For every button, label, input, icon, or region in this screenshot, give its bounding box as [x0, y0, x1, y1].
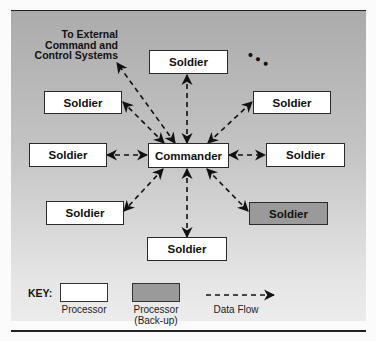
key-backup-label-line-2: (Back-up)	[126, 316, 186, 327]
key-processor-label: Processor	[54, 305, 114, 316]
key-processor-label-line: Processor	[54, 305, 114, 316]
soldier-node-bottom: Soldier	[147, 237, 227, 261]
soldier-node-upper-right: Soldier	[253, 91, 331, 114]
arrow-lower-right	[207, 169, 248, 211]
arrow-lower-left	[124, 169, 163, 211]
soldier-node-lower-right-backup: Soldier	[249, 202, 328, 225]
soldier-node-top: Soldier	[149, 50, 228, 74]
external-label-line-3: Control Systems	[35, 50, 118, 61]
key-backup-label: Processor (Back-up)	[126, 305, 186, 326]
soldier-node-lower-left: Soldier	[46, 201, 124, 225]
key-data-flow-label: Data Flow	[206, 305, 266, 316]
arrow-external	[117, 63, 175, 143]
key-processor-swatch	[60, 283, 108, 302]
soldier-node-left: Soldier	[29, 143, 107, 167]
soldier-node-right: Soldier	[266, 143, 345, 167]
arrow-upper-left	[123, 102, 164, 143]
soldier-node-upper-left: Soldier	[44, 91, 122, 114]
external-label-line-1: To External	[35, 29, 118, 40]
external-systems-label: To External Command and Control Systems	[35, 29, 118, 61]
key-data-flow-label-line: Data Flow	[206, 305, 266, 316]
key-backup-label-line-1: Processor	[126, 305, 186, 316]
commander-node: Commander	[148, 143, 229, 168]
arrow-upper-right	[208, 102, 252, 143]
bottom-rule	[11, 330, 366, 332]
key-title: KEY:	[28, 287, 52, 299]
key-backup-swatch	[132, 283, 180, 302]
